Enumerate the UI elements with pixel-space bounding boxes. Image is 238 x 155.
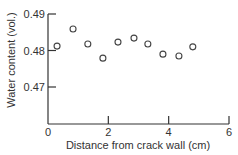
data-point-marker [54, 43, 60, 49]
data-point-marker [145, 41, 151, 47]
data-point-marker [115, 39, 121, 45]
data-point-marker [176, 53, 182, 59]
data-point-marker [190, 44, 196, 50]
y-axis-label: Water content (vol.) [5, 12, 17, 108]
y-tick-label: 0.48 [24, 45, 45, 57]
x-tick-label: 4 [166, 126, 172, 138]
y-tick-label: 0.47 [24, 81, 45, 93]
data-point-marker [70, 26, 76, 32]
x-tick-label: 2 [105, 126, 111, 138]
y-tick-label: 0.49 [24, 8, 45, 20]
x-tick-label: 0 [45, 126, 51, 138]
data-point-marker [85, 41, 91, 47]
axes: 0.470.480.490246 [24, 8, 232, 138]
data-point-marker [131, 35, 137, 41]
x-axis-label: Distance from crack wall (cm) [66, 139, 210, 151]
data-points [54, 26, 196, 61]
x-tick-label: 6 [226, 126, 232, 138]
data-point-marker [100, 55, 106, 61]
data-point-marker [160, 51, 166, 57]
scatter-chart: 0.470.480.490246 Distance from crack wal… [0, 0, 238, 155]
